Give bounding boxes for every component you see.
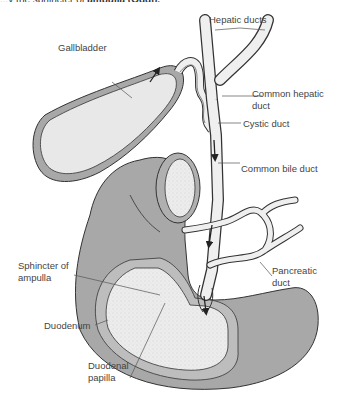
label-gallbladder: Gallbladder <box>58 42 107 53</box>
label-sphincter-line2: ampulla <box>18 272 51 283</box>
biliary-anatomy-diagram <box>0 0 340 403</box>
label-hepatic-ducts: Hepatic ducts <box>209 14 267 25</box>
label-duodenal-papilla-line2: papilla <box>88 372 115 383</box>
label-sphincter-line1: Sphincter of <box>18 260 69 271</box>
label-common-hepatic-duct-line2: duct <box>252 100 270 111</box>
label-cystic-duct: Cystic duct <box>243 118 289 129</box>
label-common-hepatic-duct-line1: Common hepatic <box>252 88 324 99</box>
label-duodenum: Duodenum <box>44 320 90 331</box>
label-duodenal-papilla-line1: Duodenal <box>88 360 129 371</box>
label-pancreatic-duct-line1: Pancreatic <box>272 265 317 276</box>
label-common-bile-duct: Common bile duct <box>241 163 318 174</box>
label-pancreatic-duct-line2: duct <box>272 277 290 288</box>
